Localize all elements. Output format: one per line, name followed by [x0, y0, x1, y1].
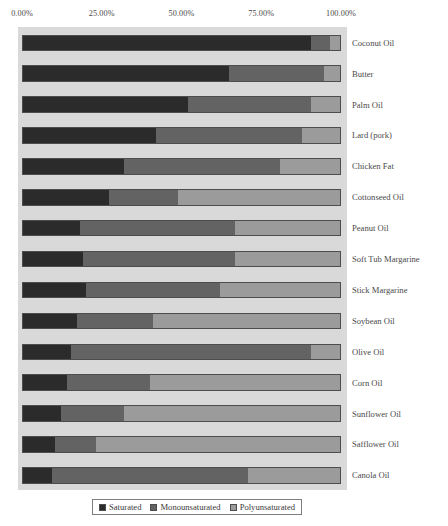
table-row — [22, 436, 341, 453]
x-axis-tick-3: 75.00% — [248, 9, 274, 18]
bar-segment-polyunsaturated — [235, 252, 340, 267]
table-row — [22, 467, 341, 484]
bar-segment-monounsaturated — [109, 190, 179, 205]
bar-segment-saturated — [23, 468, 52, 483]
bar-segment-saturated — [23, 437, 55, 452]
table-row — [22, 405, 341, 422]
legend-label: Monounsaturated — [160, 502, 220, 512]
legend-swatch-icon — [230, 504, 237, 511]
stacked-bar — [22, 251, 341, 268]
bar-segment-monounsaturated — [124, 159, 279, 174]
stacked-bar — [22, 220, 341, 237]
bar-segment-polyunsaturated — [153, 314, 340, 329]
bar-segment-saturated — [23, 314, 77, 329]
category-label-lard-pork: Lard (pork) — [352, 130, 392, 140]
bar-segment-monounsaturated — [55, 437, 96, 452]
category-label-peanut-oil: Peanut Oil — [352, 223, 389, 233]
bar-segment-saturated — [23, 221, 80, 236]
table-row — [22, 189, 341, 206]
table-row — [22, 127, 341, 144]
x-axis-tick-0: 0.00% — [11, 9, 33, 18]
category-label-safflower-oil: Safflower Oil — [352, 439, 399, 449]
table-row — [22, 282, 341, 299]
bar-segment-polyunsaturated — [324, 66, 340, 81]
bar-segment-saturated — [23, 66, 229, 81]
category-label-canola-oil: Canola Oil — [352, 470, 389, 480]
x-axis-tick-4: 100.00% — [326, 9, 356, 18]
category-label-butter: Butter — [352, 69, 373, 79]
bar-segment-saturated — [23, 128, 156, 143]
stacked-bar — [22, 467, 341, 484]
bar-segment-monounsaturated — [311, 36, 330, 51]
category-axis-labels: Coconut OilButterPalm OilLard (pork)Chic… — [352, 27, 448, 490]
legend-swatch-icon — [99, 504, 106, 511]
legend-label: Polyunsaturated — [240, 502, 295, 512]
stacked-bar — [22, 344, 341, 361]
bar-segment-saturated — [23, 406, 61, 421]
stacked-bar — [22, 158, 341, 175]
bar-segment-polyunsaturated — [235, 221, 340, 236]
stacked-bar — [22, 436, 341, 453]
category-label-olive-oil: Olive Oil — [352, 347, 384, 357]
bar-segment-polyunsaturated — [311, 97, 340, 112]
table-row — [22, 344, 341, 361]
stacked-bar-chart: 0.00%25.00%50.00%75.00%100.00% Coconut O… — [0, 0, 448, 526]
stacked-bar — [22, 374, 341, 391]
table-row — [22, 65, 341, 82]
bar-segment-monounsaturated — [188, 97, 312, 112]
stacked-bar — [22, 189, 341, 206]
category-label-chicken-fat: Chicken Fat — [352, 161, 394, 171]
bar-segment-monounsaturated — [80, 221, 235, 236]
bar-segment-monounsaturated — [67, 375, 149, 390]
bar-segment-polyunsaturated — [220, 283, 340, 298]
bar-segment-polyunsaturated — [330, 36, 340, 51]
stacked-bar — [22, 127, 341, 144]
bar-segment-saturated — [23, 159, 124, 174]
stacked-bar — [22, 282, 341, 299]
bar-segment-monounsaturated — [156, 128, 302, 143]
bar-segment-saturated — [23, 97, 188, 112]
bar-segment-saturated — [23, 190, 109, 205]
bar-segment-polyunsaturated — [280, 159, 340, 174]
table-row — [22, 313, 341, 330]
category-label-sunflower-oil: Sunflower Oil — [352, 409, 401, 419]
table-row — [22, 96, 341, 113]
x-axis-tick-1: 25.00% — [89, 9, 115, 18]
legend-swatch-icon — [150, 504, 157, 511]
category-label-palm-oil: Palm Oil — [352, 100, 383, 110]
bar-segment-polyunsaturated — [124, 406, 340, 421]
bar-segment-polyunsaturated — [302, 128, 340, 143]
category-label-corn-oil: Corn Oil — [352, 378, 382, 388]
category-label-stick-margarine: Stick Margarine — [352, 285, 407, 295]
table-row — [22, 251, 341, 268]
table-row — [22, 158, 341, 175]
bar-segment-monounsaturated — [52, 468, 249, 483]
bar-segment-saturated — [23, 36, 311, 51]
plot-area — [18, 27, 347, 490]
table-row — [22, 220, 341, 237]
legend-item-polyunsaturated[interactable]: Polyunsaturated — [230, 502, 295, 512]
stacked-bar — [22, 96, 341, 113]
bar-segment-saturated — [23, 375, 67, 390]
stacked-bar — [22, 313, 341, 330]
bar-segment-monounsaturated — [229, 66, 324, 81]
table-row — [22, 35, 341, 52]
bar-segment-monounsaturated — [71, 345, 312, 360]
x-axis-tick-2: 50.00% — [169, 9, 195, 18]
x-axis-tick-labels: 0.00%25.00%50.00%75.00%100.00% — [0, 9, 448, 23]
bar-segment-monounsaturated — [83, 252, 235, 267]
bar-segment-monounsaturated — [77, 314, 153, 329]
bar-segment-polyunsaturated — [96, 437, 340, 452]
bar-segment-saturated — [23, 283, 86, 298]
bar-segment-polyunsaturated — [178, 190, 340, 205]
legend-item-monounsaturated[interactable]: Monounsaturated — [150, 502, 220, 512]
bar-segment-saturated — [23, 252, 83, 267]
bar-segment-polyunsaturated — [248, 468, 340, 483]
stacked-bar — [22, 65, 341, 82]
category-label-soybean-oil: Soybean Oil — [352, 316, 395, 326]
table-row — [22, 374, 341, 391]
stacked-bar — [22, 35, 341, 52]
stacked-bar — [22, 405, 341, 422]
category-label-cottonseed-oil: Cottonseed Oil — [352, 192, 404, 202]
legend-item-saturated[interactable]: Saturated — [99, 502, 141, 512]
